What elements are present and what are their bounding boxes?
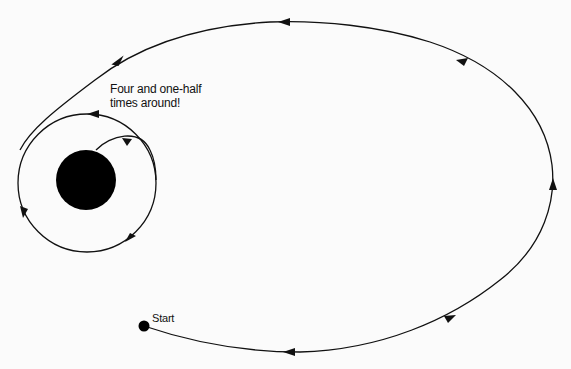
annotation-line-2: times around! [110, 96, 201, 110]
arrow-icon [456, 58, 468, 66]
arrow-icon [122, 138, 132, 146]
arrow-icon [283, 348, 295, 356]
orbit-diagram: Four and one-half times around! Start [0, 0, 571, 369]
annotation-text: Four and one-half times around! [110, 82, 201, 110]
start-label: Start [152, 311, 174, 325]
arrow-icon [125, 233, 136, 242]
arrow-icon [87, 110, 99, 118]
arrow-icon [549, 178, 557, 190]
planet-disc [56, 150, 116, 210]
arrow-icon [278, 18, 290, 26]
orbit-svg [0, 0, 571, 369]
annotation-line-1: Four and one-half [110, 82, 201, 96]
start-dot [139, 321, 150, 332]
arrow-icon [444, 315, 456, 323]
